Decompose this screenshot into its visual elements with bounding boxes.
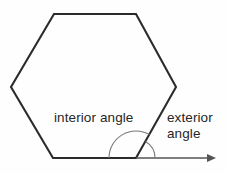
hexagon-outline	[11, 14, 176, 158]
exterior-ray	[136, 154, 216, 162]
hexagon-diagram-svg	[0, 0, 226, 173]
interior-angle-label: interior angle	[54, 110, 133, 126]
ray-arrowhead-icon	[207, 154, 216, 162]
exterior-angle-label-line1: exterior	[167, 110, 213, 125]
hexagon-path	[11, 14, 176, 158]
exterior-angle-label: exteriorangle	[167, 110, 213, 141]
exterior-angle-label-line2: angle	[167, 126, 201, 141]
exterior-angle-arc	[146, 142, 156, 159]
diagram-canvas: interior angle exteriorangle	[0, 0, 226, 173]
